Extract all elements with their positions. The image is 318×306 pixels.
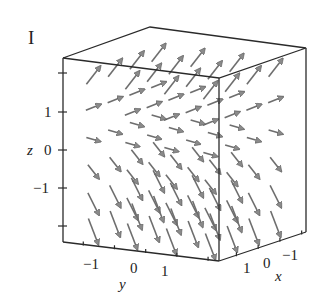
z-tick-1: 1 <box>44 105 52 120</box>
x-tick-1: 1 <box>243 261 251 276</box>
x-tick-neg1: −1 <box>282 248 298 263</box>
z-tick-0: 0 <box>44 143 52 158</box>
y-tick-1: 1 <box>161 264 169 279</box>
vector-arrows <box>86 44 283 260</box>
y-tick-0: 0 <box>130 261 138 276</box>
y-axis-label: y <box>119 277 126 292</box>
x-axis-label: x <box>275 269 282 284</box>
x-tick-0: 0 <box>263 256 271 271</box>
z-axis-label: z <box>27 143 33 158</box>
z-tick-neg1: −1 <box>33 181 49 196</box>
y-tick-neg1: −1 <box>83 257 99 272</box>
bounding-box <box>63 27 306 261</box>
